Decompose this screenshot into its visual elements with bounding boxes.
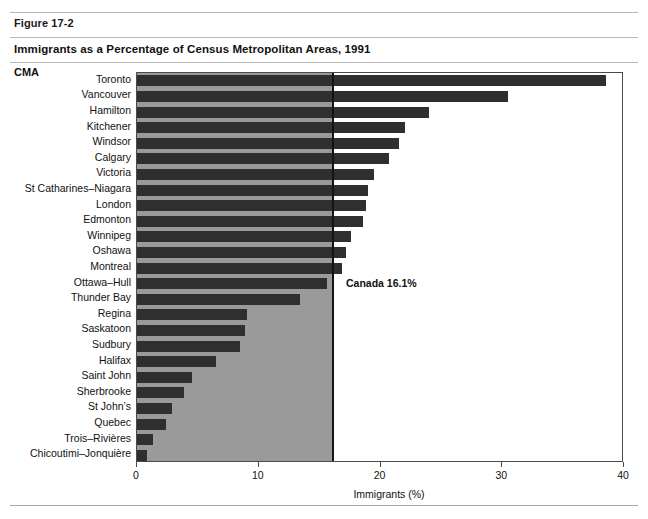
category-label: London [0, 199, 131, 210]
bar [137, 419, 166, 430]
immigrants-bar-chart: TorontoVancouverHamiltonKitchenerWindsor… [0, 0, 648, 519]
category-label: Victoria [0, 167, 131, 178]
bar [137, 231, 351, 242]
bar [137, 403, 172, 414]
x-axis-tick-label: 30 [495, 469, 507, 481]
category-label: Toronto [0, 74, 131, 85]
category-label: Chicoutimi–Jonquière [0, 448, 131, 459]
x-axis-tick-label: 20 [374, 469, 386, 481]
x-axis-tick [136, 462, 137, 467]
bar [137, 356, 216, 367]
category-label: Kitchener [0, 121, 131, 132]
x-axis-title: Immigrants (%) [0, 488, 648, 500]
bar [137, 107, 429, 118]
category-label: Ottawa–Hull [0, 277, 131, 288]
bar [137, 341, 240, 352]
bar [137, 91, 508, 102]
x-axis-tick [380, 462, 381, 467]
bar [137, 263, 342, 274]
category-label: Trois–Rivières [0, 433, 131, 444]
bar [137, 75, 606, 86]
x-axis-tick-label: 10 [252, 469, 264, 481]
category-label: Saskatoon [0, 323, 131, 334]
category-label: Regina [0, 308, 131, 319]
bar [137, 138, 399, 149]
bar [137, 387, 184, 398]
national-average-annotation: Canada 16.1% [346, 277, 417, 289]
category-axis-labels: TorontoVancouverHamiltonKitchenerWindsor… [0, 72, 131, 462]
category-label: St Catharines–Niagara [0, 183, 131, 194]
bar [137, 278, 327, 289]
category-label: Calgary [0, 152, 131, 163]
category-label: St John’s [0, 401, 131, 412]
category-label: Sudbury [0, 339, 131, 350]
bar [137, 216, 363, 227]
bar [137, 169, 374, 180]
footer-rule [10, 505, 638, 506]
x-axis-tick [501, 462, 502, 467]
bar [137, 325, 245, 336]
figure-page: Figure 17-2 Immigrants as a Percentage o… [0, 0, 648, 519]
bar [137, 434, 153, 445]
category-label: Saint John [0, 370, 131, 381]
category-label: Quebec [0, 417, 131, 428]
bar [137, 294, 300, 305]
x-axis-title-text: Immigrants (%) [223, 488, 424, 500]
category-label: Thunder Bay [0, 292, 131, 303]
category-label: Halifax [0, 355, 131, 366]
x-axis-tick [258, 462, 259, 467]
x-axis-tick [623, 462, 624, 467]
x-axis-tick-label: 40 [617, 469, 629, 481]
category-label: Vancouver [0, 89, 131, 100]
bar [137, 122, 405, 133]
bar [137, 247, 346, 258]
category-label: Hamilton [0, 105, 131, 116]
bar [137, 309, 247, 320]
category-label: Winnipeg [0, 230, 131, 241]
plot-area [136, 72, 623, 462]
category-label: Edmonton [0, 214, 131, 225]
national-average-line [332, 73, 334, 461]
bar [137, 450, 147, 461]
category-label: Sherbrooke [0, 386, 131, 397]
category-label: Oshawa [0, 245, 131, 256]
x-axis-tick-label: 0 [133, 469, 139, 481]
category-label: Windsor [0, 136, 131, 147]
category-label: Montreal [0, 261, 131, 272]
bar [137, 153, 389, 164]
bar [137, 372, 192, 383]
